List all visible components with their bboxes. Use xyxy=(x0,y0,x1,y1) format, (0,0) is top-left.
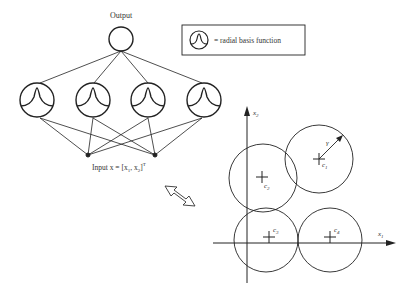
double-arrow-icon xyxy=(165,186,195,206)
gaussian-icon xyxy=(132,88,164,106)
hidden-node-4 xyxy=(187,83,221,117)
y-axis-arrow-icon xyxy=(244,106,250,116)
legend: = radial basis function xyxy=(182,25,305,55)
rbf-field-c3 xyxy=(234,208,298,272)
rbf-network xyxy=(20,27,221,157)
gaussian-icon xyxy=(188,88,220,106)
input-node-1 xyxy=(86,153,90,157)
hidden-node-2 xyxy=(76,83,110,117)
x-axis-arrow-icon xyxy=(386,240,396,246)
radius-line xyxy=(319,137,341,159)
rbf-field-c2 xyxy=(229,144,297,212)
input-node-2 xyxy=(153,153,157,157)
output-label: Output xyxy=(110,11,133,20)
gaussian-icon xyxy=(77,88,109,106)
legend-text: = radial basis function xyxy=(214,36,281,45)
y-axis-label: x2 xyxy=(252,109,259,118)
x-axis-label: x1 xyxy=(377,230,384,239)
input-space-plot xyxy=(213,106,396,283)
rbf-diagram: Output Input x = [x1, x2]T = radial basi… xyxy=(0,0,410,300)
input-label: Input x = [x1, x2]T xyxy=(92,162,146,173)
radial-basis-function-icon xyxy=(190,31,208,49)
hidden-node-3 xyxy=(131,83,165,117)
radius-label: γ xyxy=(326,139,329,147)
output-connections xyxy=(40,51,202,83)
center-c4-label: c4 xyxy=(334,226,340,235)
center-c1-label: c1 xyxy=(322,161,328,170)
output-node xyxy=(109,27,133,51)
hidden-node-1 xyxy=(20,83,54,117)
input-connections xyxy=(40,118,202,155)
gaussian-icon xyxy=(21,88,53,106)
center-c2-label: c2 xyxy=(264,182,270,191)
center-c3-label: c3 xyxy=(273,226,279,235)
